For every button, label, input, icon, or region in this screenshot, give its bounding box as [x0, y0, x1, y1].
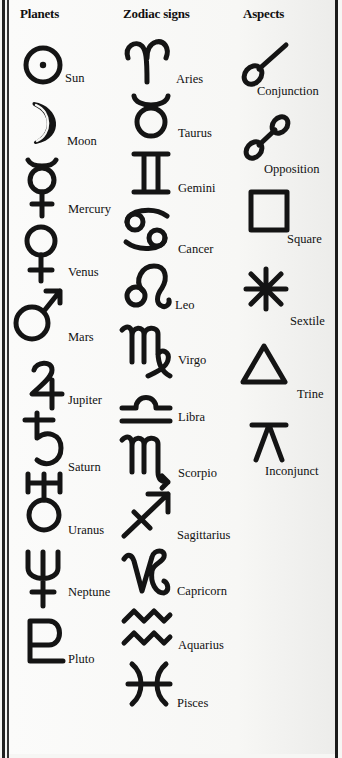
zodiac-label-sagittarius: Sagittarius: [177, 528, 230, 543]
zodiac-label-aquarius: Aquarius: [178, 638, 224, 653]
aspect-label-trine: Trine: [297, 387, 324, 402]
aspect-label-square: Square: [287, 232, 322, 247]
zodiac-label-taurus: Taurus: [178, 126, 212, 141]
planet-label-pluto: Pluto: [68, 652, 94, 667]
aquarius-icon: [120, 605, 174, 651]
pluto-icon: [25, 617, 67, 665]
zodiac-label-aries: Aries: [176, 72, 203, 87]
zodiac-label-cancer: Cancer: [178, 242, 213, 257]
moon-icon: [30, 100, 64, 146]
libra-icon: [118, 390, 174, 426]
gemini-icon: [130, 150, 172, 196]
leo-icon: [122, 262, 174, 312]
planet-label-moon: Moon: [67, 134, 97, 149]
inconjunct-icon: [248, 420, 290, 464]
planet-label-mercury: Mercury: [68, 202, 111, 217]
aspect-label-sextile: Sextile: [290, 314, 325, 329]
conjunction-icon: [240, 40, 290, 90]
trine-icon: [239, 342, 289, 386]
zodiac-label-scorpio: Scorpio: [178, 466, 217, 481]
zodiac-label-gemini: Gemini: [178, 181, 216, 196]
planet-label-venus: Venus: [68, 265, 99, 280]
cancer-icon: [121, 204, 173, 254]
aspects-column-header: Aspects: [243, 6, 284, 22]
mars-icon: [12, 285, 64, 345]
zodiac-column-header: Zodiac signs: [123, 6, 190, 22]
planet-label-saturn: Saturn: [68, 460, 101, 475]
aspect-label-opposition: Opposition: [264, 162, 320, 177]
taurus-icon: [130, 92, 172, 140]
uranus-icon: [22, 470, 66, 536]
pisces-icon: [124, 660, 174, 708]
planet-label-neptune: Neptune: [68, 585, 110, 600]
planet-label-uranus: Uranus: [68, 523, 104, 538]
saturn-icon: [21, 410, 65, 470]
planet-label-jupiter: Jupiter: [68, 393, 102, 408]
mercury-icon: [24, 156, 60, 220]
jupiter-icon: [28, 360, 64, 412]
sagittarius-icon: [120, 488, 172, 540]
aspect-label-inconjunct: Inconjunct: [265, 464, 318, 479]
neptune-icon: [24, 548, 62, 610]
zodiac-label-capricorn: Capricorn: [177, 584, 227, 599]
scorpio-icon: [118, 432, 174, 490]
aspect-label-conjunction: Conjunction: [257, 84, 319, 99]
sextile-icon: [243, 266, 289, 312]
page-border-inner-rule: [7, 0, 9, 758]
sun-icon: [22, 44, 64, 86]
zodiac-label-libra: Libra: [178, 410, 205, 425]
zodiac-label-pisces: Pisces: [177, 696, 208, 711]
opposition-icon: [242, 112, 292, 164]
planets-column-header: Planets: [20, 6, 59, 22]
venus-icon: [22, 224, 60, 284]
planet-label-sun: Sun: [65, 71, 84, 86]
virgo-icon: [118, 322, 174, 380]
square-icon: [247, 188, 291, 234]
zodiac-label-leo: Leo: [175, 298, 194, 313]
capricorn-icon: [120, 547, 172, 599]
planet-label-mars: Mars: [68, 330, 94, 345]
zodiac-label-virgo: Virgo: [178, 353, 206, 368]
aries-icon: [122, 38, 172, 86]
